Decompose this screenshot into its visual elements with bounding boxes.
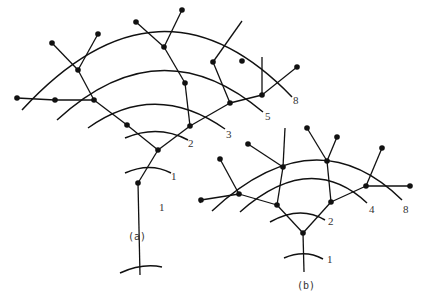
level-arc — [125, 168, 171, 174]
level-arc — [57, 70, 263, 120]
tree-node — [155, 147, 161, 153]
level-label: 5 — [265, 110, 271, 122]
tree-node — [161, 44, 167, 50]
tree-node — [182, 80, 188, 86]
tree-node — [187, 123, 193, 129]
tree-node — [133, 19, 139, 25]
tree-node — [210, 59, 216, 65]
tree-edge — [78, 70, 94, 100]
tree-diagram: 112358(a)1248(b) — [0, 0, 421, 299]
tree-edge — [138, 183, 140, 275]
level-label: 3 — [226, 128, 232, 140]
tree-node — [363, 183, 369, 189]
tree-edge — [213, 62, 230, 103]
tree-node — [324, 158, 330, 164]
tree-node — [91, 97, 97, 103]
tree-node — [179, 7, 185, 13]
tree-node — [198, 197, 204, 203]
tree-node — [95, 31, 101, 37]
tree-node — [334, 134, 340, 140]
tree-edge — [78, 34, 98, 70]
tree-node — [379, 145, 385, 151]
tree-edge — [239, 194, 277, 205]
tree-node — [300, 230, 306, 236]
tree-node — [280, 164, 286, 170]
tree-node — [75, 67, 81, 73]
level-arc — [240, 179, 367, 212]
tree-edge — [248, 144, 283, 167]
tree-node — [14, 95, 20, 101]
tree-edge — [185, 83, 190, 126]
tree-node — [259, 92, 265, 98]
figure-canvas: 112358(a)1248(b) — [0, 0, 421, 299]
panel-caption: (a) — [128, 231, 146, 242]
tree-edge — [138, 150, 158, 183]
tree-edge — [303, 202, 331, 233]
tree-node — [52, 97, 58, 103]
tree-edge — [220, 159, 239, 194]
tree-edge — [164, 47, 185, 83]
tree-edge — [303, 233, 304, 272]
tree-node — [245, 141, 251, 147]
tree-edge — [283, 128, 285, 167]
tree-edge — [277, 205, 303, 233]
level-label: 1 — [159, 201, 165, 213]
tree-node — [274, 202, 280, 208]
panel-caption: (b) — [297, 280, 315, 291]
level-label: 1 — [327, 253, 333, 265]
tree-edge — [262, 67, 297, 95]
level-label: 2 — [188, 137, 194, 149]
tree-node — [236, 191, 242, 197]
level-arc — [88, 104, 225, 129]
tree-node — [227, 100, 233, 106]
tree-edge — [17, 98, 55, 100]
tree-node — [294, 64, 300, 70]
tree-edge — [164, 10, 182, 47]
tree-edge — [366, 148, 382, 186]
level-arc — [120, 266, 162, 273]
level-label: 8 — [293, 94, 299, 106]
level-label: 8 — [403, 203, 409, 215]
level-arc — [125, 131, 188, 140]
tree-edge — [127, 125, 158, 150]
tree-node — [124, 122, 130, 128]
tree-node — [49, 40, 55, 46]
tree-edge — [52, 43, 78, 70]
tree-edge — [213, 21, 242, 62]
tree-edge — [307, 128, 327, 161]
panel-b: 1248(b) — [198, 125, 413, 291]
tree-edge — [201, 194, 239, 200]
level-label: 2 — [328, 215, 334, 227]
level-label: 1 — [171, 170, 177, 182]
tree-node — [407, 183, 413, 189]
tree-node — [135, 180, 141, 186]
tree-edge — [230, 95, 262, 103]
tree-node — [328, 199, 334, 205]
tree-node — [217, 156, 223, 162]
level-label: 4 — [369, 203, 375, 215]
panel-a: 112358(a) — [14, 7, 300, 275]
tree-edge — [327, 137, 337, 161]
tree-node — [239, 58, 245, 64]
tree-edge — [190, 103, 230, 126]
tree-node — [304, 125, 310, 131]
